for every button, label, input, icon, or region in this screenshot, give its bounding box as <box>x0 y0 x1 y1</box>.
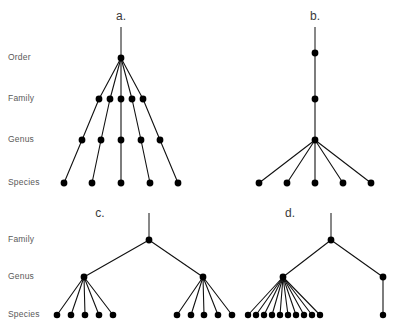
panel-c-edge-genus-species <box>57 277 84 315</box>
panel-c-node-family <box>146 237 153 244</box>
panel-b-node-species <box>368 180 375 187</box>
panel-c-node-species <box>110 312 117 319</box>
rank-label-order: Order <box>8 52 31 62</box>
panel-c-node-genus <box>200 274 207 281</box>
panel-d-node-species <box>293 312 299 318</box>
panel-a-node-order <box>118 55 125 62</box>
panel-d-edge-family-genus <box>283 240 331 277</box>
panel-c-edge-genus-species <box>84 277 113 315</box>
panel-c-edge-family-genus <box>84 240 149 277</box>
panel-a-node-family <box>140 96 147 103</box>
panel-c-edge-genus-species <box>84 277 85 315</box>
panel-a: a. <box>61 9 182 186</box>
panel-c-edge-genus-species <box>84 277 99 315</box>
panel-d-edge-genus-species <box>256 277 283 315</box>
panel-a-edge-genus-species <box>92 140 101 183</box>
panel-a-node-family <box>107 96 114 103</box>
panel-d-node-species <box>261 312 267 318</box>
panel-b-node-species <box>284 180 291 187</box>
panel-c-edge-genus-species <box>191 277 203 315</box>
panel-d-node-genus <box>380 274 387 281</box>
rank-label-family: Family <box>8 234 35 244</box>
panel-c-edge-genus-species <box>71 277 84 315</box>
panel-a-letter: a. <box>116 9 126 23</box>
panel-a-edge-order-family <box>110 58 121 99</box>
panel-b-node-order <box>312 50 319 57</box>
panel-a-edges <box>64 58 178 183</box>
panel-c-edge-genus-species <box>203 277 204 315</box>
panel-c-node-species <box>201 312 208 319</box>
panel-a-edge-family-genus <box>101 99 110 140</box>
panel-a-node-genus <box>98 137 105 144</box>
panel-a-edge-order-family <box>121 58 143 99</box>
panel-b-node-genus <box>312 137 319 144</box>
panel-a-node-species <box>147 180 154 187</box>
panel-b-edge-genus-species <box>315 140 343 183</box>
panel-a-node-species <box>118 180 125 187</box>
panel-c-node-species <box>54 312 61 319</box>
panel-c-node-species <box>229 312 236 319</box>
panel-d-nodes <box>245 237 387 319</box>
panel-a-edge-order-family <box>121 58 132 99</box>
panel-a-edge-genus-species <box>141 140 150 183</box>
panel-a-edge-genus-species <box>64 140 82 183</box>
panel-c-node-species <box>215 312 222 319</box>
panel-a-node-family <box>118 96 125 103</box>
panel-b-edges <box>259 53 371 183</box>
panel-c-letter: c. <box>95 206 104 220</box>
rank-labels-top: OrderFamilyGenusSpecies <box>8 52 40 187</box>
rank-label-genus: Genus <box>8 271 34 281</box>
panel-d-node-species <box>245 312 251 318</box>
panels-group: a.b.c.d. <box>54 9 387 318</box>
panel-a-edge-genus-species <box>160 140 178 183</box>
panel-c: c. <box>54 206 236 318</box>
panel-c-nodes <box>54 237 236 319</box>
panel-b-node-species <box>256 180 263 187</box>
panel-b-edge-genus-species <box>259 140 315 183</box>
panel-a-node-family <box>129 96 136 103</box>
panel-d-node-species <box>277 312 283 318</box>
panel-c-node-species <box>188 312 195 319</box>
panel-b: b. <box>256 9 375 186</box>
panel-c-node-species <box>82 312 89 319</box>
panel-a-edge-family-genus <box>82 99 99 140</box>
panel-a-node-family <box>96 96 103 103</box>
panel-d-edges <box>248 240 383 315</box>
panel-d-node-genus <box>280 274 287 281</box>
panel-a-node-species <box>61 180 68 187</box>
phylogenetic-tree-figure: OrderFamilyGenusSpecies FamilyGenusSpeci… <box>0 0 401 330</box>
panel-d-edge-family-genus <box>331 240 383 277</box>
panel-c-edge-family-genus <box>149 240 203 277</box>
panel-d-node-species <box>317 312 323 318</box>
panel-c-edge-genus-species <box>177 277 203 315</box>
rank-label-species: Species <box>8 177 40 187</box>
panel-a-edge-family-genus <box>143 99 160 140</box>
panel-d-node-species <box>253 312 259 318</box>
panel-d-node-species <box>285 312 291 318</box>
panel-c-node-species <box>68 312 75 319</box>
panel-c-edge-genus-species <box>203 277 232 315</box>
panel-a-node-species <box>175 180 182 187</box>
rank-label-genus: Genus <box>8 134 34 144</box>
panel-d-node-species <box>301 312 307 318</box>
panel-d: d. <box>245 206 387 318</box>
panel-d-node-species <box>309 312 315 318</box>
panel-d-letter: d. <box>285 206 295 220</box>
panel-b-node-family <box>312 96 319 103</box>
tree-canvas: OrderFamilyGenusSpecies FamilyGenusSpeci… <box>0 0 401 330</box>
panel-c-node-species <box>174 312 181 319</box>
rank-label-species: Species <box>8 309 40 319</box>
rank-label-family: Family <box>8 93 35 103</box>
panel-a-node-genus <box>79 137 86 144</box>
panel-b-letter: b. <box>310 9 320 23</box>
panel-d-edge-genus-species <box>283 277 320 315</box>
panel-b-node-species <box>312 180 319 187</box>
panel-a-edge-family-genus <box>132 99 141 140</box>
panel-b-edge-genus-species <box>287 140 315 183</box>
panel-a-node-genus <box>118 137 125 144</box>
panel-d-node-species <box>380 312 386 318</box>
panel-d-node-family <box>328 237 335 244</box>
panel-a-node-species <box>89 180 96 187</box>
panel-c-node-genus <box>81 274 88 281</box>
panel-a-node-genus <box>138 137 145 144</box>
